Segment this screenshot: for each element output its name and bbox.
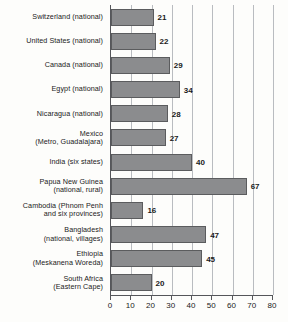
bar-value-label: 40 bbox=[196, 158, 205, 167]
bar-row: 21 bbox=[111, 9, 273, 26]
category-tick: Canada (national) bbox=[0, 53, 106, 77]
category-label: Cambodia (Phnom Penh and six provinces) bbox=[23, 202, 103, 219]
bar[interactable] bbox=[111, 33, 156, 50]
x-tick-label: 40 bbox=[187, 301, 196, 310]
category-tick: Egypt (national) bbox=[0, 78, 106, 102]
category-axis: Switzerland (national)United States (nat… bbox=[0, 5, 108, 295]
category-label: Switzerland (national) bbox=[32, 13, 103, 21]
bar-row: 45 bbox=[111, 250, 273, 267]
plot-area: 212229342827406716474520 bbox=[110, 5, 273, 296]
x-tick-label: 70 bbox=[247, 301, 256, 310]
x-tick-label: 10 bbox=[126, 301, 135, 310]
x-tick-label: 30 bbox=[166, 301, 175, 310]
category-label: India (six states) bbox=[49, 158, 103, 166]
bar[interactable] bbox=[111, 274, 152, 291]
category-label: Papua New Guinea (national, rural) bbox=[40, 178, 104, 195]
bar[interactable] bbox=[111, 178, 247, 195]
gridline bbox=[273, 5, 274, 295]
bar-value-label: 27 bbox=[170, 133, 179, 142]
bar-row: 27 bbox=[111, 129, 273, 146]
x-tick-mark bbox=[130, 296, 131, 300]
x-tick-mark bbox=[171, 296, 172, 300]
bar-row: 28 bbox=[111, 105, 273, 122]
category-tick: Papua New Guinea (national, rural) bbox=[0, 174, 106, 198]
bar[interactable] bbox=[111, 202, 143, 219]
bar-row: 16 bbox=[111, 202, 273, 219]
category-tick: South Africa (Eastern Cape) bbox=[0, 271, 106, 295]
bar-value-label: 47 bbox=[210, 230, 219, 239]
category-tick: Ethiopia (Meskanena Woreda) bbox=[0, 247, 106, 271]
bar-row: 47 bbox=[111, 226, 273, 243]
x-tick-mark bbox=[272, 296, 273, 300]
x-tick-label: 50 bbox=[207, 301, 216, 310]
bar-row: 20 bbox=[111, 274, 273, 291]
category-label: Nicaragua (national) bbox=[37, 110, 103, 118]
category-tick: Switzerland (national) bbox=[0, 5, 106, 29]
category-label: Egypt (national) bbox=[52, 85, 104, 93]
bar[interactable] bbox=[111, 9, 154, 26]
bar-row: 34 bbox=[111, 81, 273, 98]
category-tick: United States (national) bbox=[0, 29, 106, 53]
bar[interactable] bbox=[111, 81, 180, 98]
x-tick-mark bbox=[252, 296, 253, 300]
category-label: South Africa (Eastern Cape) bbox=[53, 275, 103, 292]
bar-row: 22 bbox=[111, 33, 273, 50]
bar[interactable] bbox=[111, 154, 192, 171]
bar-value-label: 34 bbox=[184, 85, 193, 94]
x-tick-mark bbox=[151, 296, 152, 300]
category-tick: Mexico (Metro, Guadalajara) bbox=[0, 126, 106, 150]
category-label: Bangladesh (national, villages) bbox=[44, 226, 103, 243]
bar-value-label: 21 bbox=[158, 13, 167, 22]
bar-row: 29 bbox=[111, 57, 273, 74]
bar-chart: Switzerland (national)United States (nat… bbox=[0, 0, 288, 322]
x-tick-label: 80 bbox=[268, 301, 277, 310]
bar-value-label: 29 bbox=[174, 61, 183, 70]
bar-row: 40 bbox=[111, 154, 273, 171]
bar[interactable] bbox=[111, 105, 168, 122]
category-label: Canada (national) bbox=[45, 61, 103, 69]
category-label: Ethiopia (Meskanena Woreda) bbox=[33, 250, 103, 267]
x-tick-label: 20 bbox=[146, 301, 155, 310]
category-label: United States (national) bbox=[26, 37, 103, 45]
bar-value-label: 16 bbox=[147, 206, 156, 215]
bar[interactable] bbox=[111, 250, 202, 267]
bar-value-label: 28 bbox=[172, 109, 181, 118]
category-tick: Cambodia (Phnom Penh and six provinces) bbox=[0, 198, 106, 222]
category-tick: Nicaragua (national) bbox=[0, 102, 106, 126]
x-tick-mark bbox=[191, 296, 192, 300]
bar[interactable] bbox=[111, 129, 166, 146]
bar-value-label: 20 bbox=[156, 278, 165, 287]
x-tick-mark bbox=[211, 296, 212, 300]
x-tick-label: 0 bbox=[108, 301, 112, 310]
x-tick-mark bbox=[232, 296, 233, 300]
bar-value-label: 22 bbox=[160, 37, 169, 46]
x-tick-mark bbox=[110, 296, 111, 300]
x-axis: 01020304050607080 bbox=[110, 296, 273, 320]
x-tick-label: 60 bbox=[227, 301, 236, 310]
bar[interactable] bbox=[111, 226, 206, 243]
category-label: Mexico (Metro, Guadalajara) bbox=[35, 130, 103, 147]
bar-value-label: 45 bbox=[206, 254, 215, 263]
category-tick: Bangladesh (national, villages) bbox=[0, 223, 106, 247]
bar-value-label: 67 bbox=[251, 182, 260, 191]
bar-row: 67 bbox=[111, 178, 273, 195]
category-tick: India (six states) bbox=[0, 150, 106, 174]
bar[interactable] bbox=[111, 57, 170, 74]
